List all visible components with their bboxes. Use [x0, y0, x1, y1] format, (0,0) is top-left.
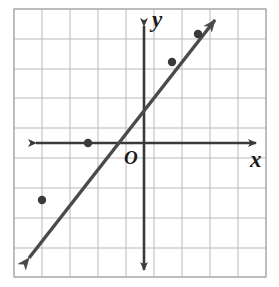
origin-label: O — [124, 148, 138, 167]
coordinate-plane-figure: y x O — [0, 0, 279, 287]
data-point — [194, 30, 202, 38]
y-axis-label: y — [152, 8, 162, 31]
x-axis-label: x — [250, 148, 262, 171]
data-point — [168, 58, 176, 66]
graph-canvas — [0, 0, 279, 287]
data-point — [84, 139, 92, 147]
data-point — [38, 196, 46, 204]
